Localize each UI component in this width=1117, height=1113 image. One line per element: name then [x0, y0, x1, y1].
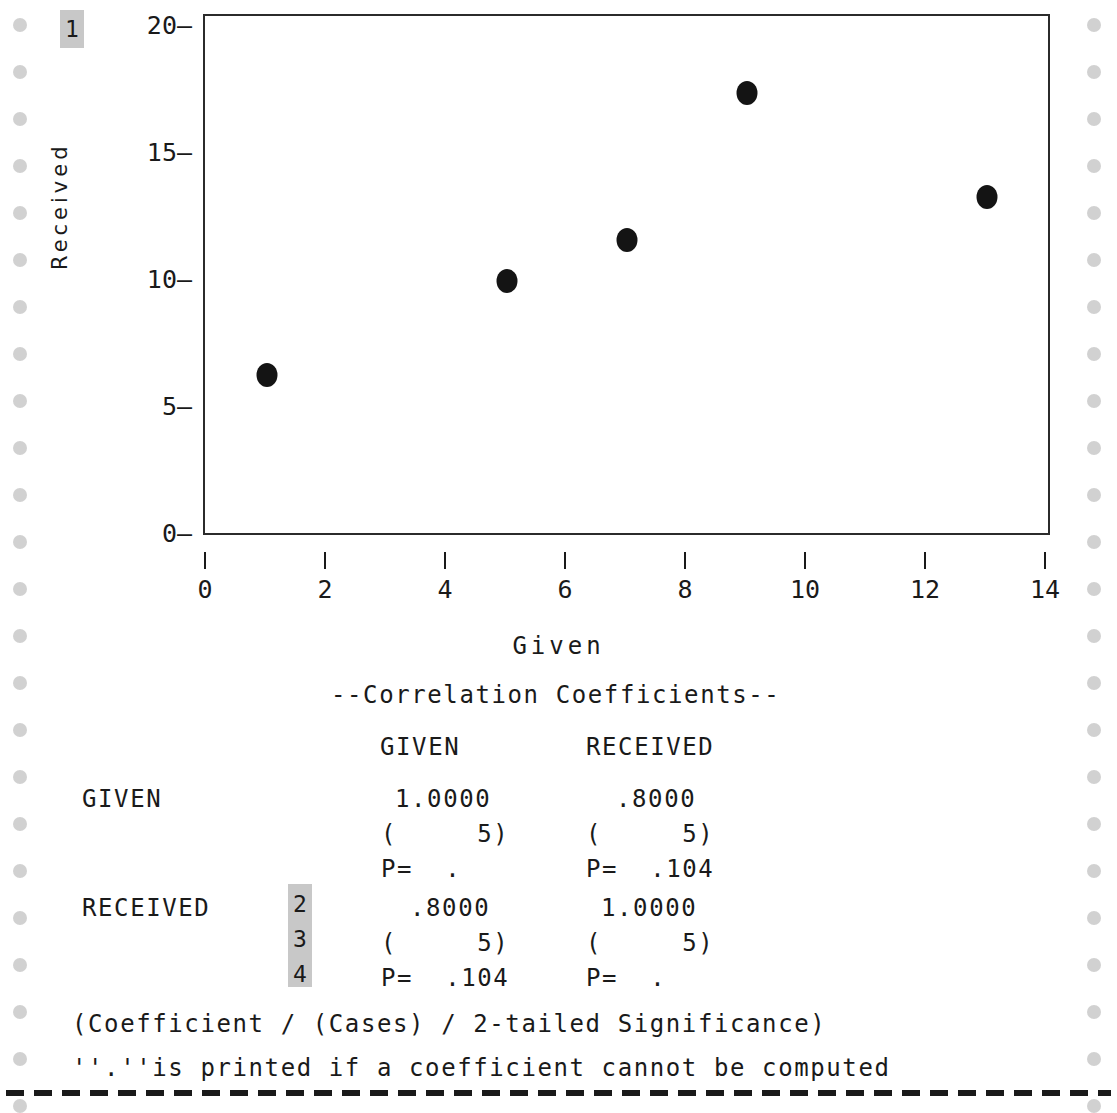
plot-frame — [203, 14, 1050, 535]
annotation-marker-2[interactable]: 2 — [293, 887, 307, 922]
report-received-coefficient-received: 1.0000 — [601, 891, 697, 926]
x-axis-tick-label: 14 — [1030, 575, 1060, 604]
feed-hole — [13, 817, 27, 831]
feed-hole — [13, 958, 27, 972]
feed-hole — [13, 911, 27, 925]
report-col-header-received: RECEIVED — [586, 730, 714, 765]
x-axis-tick-mark — [444, 552, 446, 569]
report-given-cases-received: ( 5) — [586, 817, 714, 852]
report-received-cases-given: ( 5) — [381, 926, 509, 961]
data-point — [497, 269, 518, 293]
x-axis-tick-mark — [564, 552, 566, 569]
annotation-marker-1-label: 1 — [65, 16, 79, 42]
x-axis-tick-mark — [204, 552, 206, 569]
x-axis-tick-mark — [684, 552, 686, 569]
printout-page: 1 Received 0–5–10–15–20– 02468101214 Giv… — [0, 0, 1117, 1113]
feed-hole — [13, 1099, 27, 1113]
x-axis-tick-mark — [324, 552, 326, 569]
data-point — [737, 81, 758, 105]
y-axis-tick-label: 20– — [110, 11, 192, 40]
annotation-marker-4[interactable]: 4 — [293, 957, 307, 992]
feed-hole — [1087, 1005, 1101, 1019]
data-point — [257, 363, 278, 387]
x-axis-tick-mark — [804, 552, 806, 569]
report-row-label-received: RECEIVED — [82, 891, 210, 926]
feed-hole — [1087, 1099, 1101, 1113]
data-point — [977, 185, 998, 209]
feed-hole — [13, 723, 27, 737]
feed-hole — [1087, 817, 1101, 831]
report-footnote-dot: ''.''is printed if a coefficient cannot … — [72, 1051, 891, 1086]
feed-hole — [1087, 1052, 1101, 1066]
report-received-coefficient-given: .8000 — [410, 891, 490, 926]
x-axis-title: Given — [0, 632, 1117, 660]
report-footnote-legend: (Coefficient / (Cases) / 2-tailed Signif… — [72, 1007, 826, 1042]
report-given-coefficient-given: 1.0000 — [395, 782, 491, 817]
x-axis-tick-label: 2 — [317, 575, 332, 604]
feed-hole — [13, 770, 27, 784]
feed-hole — [13, 1005, 27, 1019]
report-given-cases-given: ( 5) — [381, 817, 509, 852]
annotation-marker-1[interactable]: 1 — [60, 10, 84, 48]
feed-hole — [1087, 676, 1101, 690]
report-given-sig-given: P= . — [381, 852, 461, 887]
feed-hole — [1087, 864, 1101, 878]
feed-hole — [1087, 723, 1101, 737]
feed-hole — [1087, 911, 1101, 925]
report-given-sig-received: P= .104 — [586, 852, 714, 887]
y-axis-tick-label: 15– — [110, 138, 192, 167]
x-axis-tick-label: 8 — [677, 575, 692, 604]
data-point — [617, 228, 638, 252]
y-axis-tick-label: 0– — [110, 519, 192, 548]
x-axis-tick-label: 10 — [790, 575, 820, 604]
report-received-sig-given: P= .104 — [381, 961, 509, 996]
feed-hole — [1087, 770, 1101, 784]
feed-hole — [13, 676, 27, 690]
feed-hole — [1087, 958, 1101, 972]
scatter-plot: 1 Received 0–5–10–15–20– 02468101214 Giv… — [0, 0, 1117, 620]
report-received-cases-received: ( 5) — [586, 926, 714, 961]
report-col-header-given: GIVEN — [380, 730, 460, 765]
y-axis-tick-label: 5– — [110, 392, 192, 421]
x-axis-tick-label: 6 — [557, 575, 572, 604]
feed-hole — [13, 1052, 27, 1066]
x-axis-tick-label: 0 — [197, 575, 212, 604]
x-axis-tick-label: 12 — [910, 575, 940, 604]
y-axis-title: Received — [48, 142, 72, 270]
annotation-marker-strip[interactable]: 2 3 4 — [288, 884, 312, 987]
y-axis-tick-label: 10– — [110, 265, 192, 294]
report-row-label-given: GIVEN — [82, 782, 162, 817]
report-heading: --Correlation Coefficients-- — [331, 678, 780, 713]
report-given-coefficient-received: .8000 — [616, 782, 696, 817]
page-separator-dashed-line — [6, 1090, 1111, 1096]
x-axis-tick-mark — [1044, 552, 1046, 569]
feed-hole — [13, 864, 27, 878]
x-axis-tick-label: 4 — [437, 575, 452, 604]
x-axis-tick-mark — [924, 552, 926, 569]
report-received-sig-received: P= . — [586, 961, 666, 996]
annotation-marker-3[interactable]: 3 — [293, 922, 307, 957]
